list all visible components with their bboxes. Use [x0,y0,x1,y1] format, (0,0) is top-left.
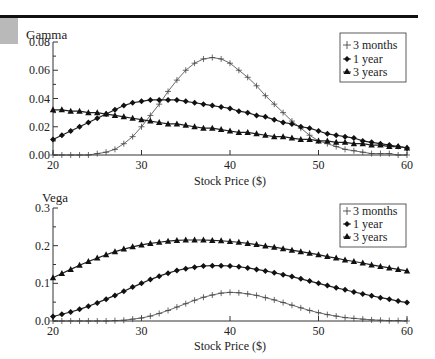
gamma-legend-3-years: 3 years [353,65,388,79]
y-tick-label: 0.08 [29,35,50,49]
gamma-legend-3-months: 3 months [353,38,398,52]
x-tick-label: 50 [313,158,325,172]
y-tick-label: 0.06 [29,63,50,77]
greeks-chart: Gamma 0.000.020.040.060.082030405060 Sto… [0,0,435,359]
y-tick-label: 0.04 [29,92,50,106]
vega-legend-1-year: 1 year [353,217,383,231]
gamma-legend: 3 months 1 year 3 years [340,33,406,82]
gamma-legend-1-year: 1 year [353,52,383,66]
x-tick-label: 20 [47,158,59,172]
x-tick-label: 60 [401,158,413,172]
y-tick-label: 0.1 [35,276,50,290]
vega-legend-3-years: 3 years [353,230,388,244]
y-tick-label: 0.02 [29,120,50,134]
vega-legend: 3 months 1 year 3 years [340,204,406,247]
x-tick-label: 40 [224,324,236,338]
x-tick-label: 20 [47,324,59,338]
y-tick-label: 0.3 [35,201,50,215]
x-tick-label: 30 [136,158,148,172]
x-tick-label: 40 [224,158,236,172]
x-tick-label: 60 [401,324,413,338]
x-tick-label: 50 [313,324,325,338]
vega-legend-3-months: 3 months [353,204,398,218]
vega-x-axis-title: Stock Price ($) [194,339,266,353]
x-tick-label: 30 [136,324,148,338]
vega-panel: Vega 0.00.10.20.32030405060 Stock Price … [35,190,413,353]
gamma-panel: Gamma 0.000.020.040.060.082030405060 Sto… [26,27,413,188]
y-tick-label: 0.2 [35,239,50,253]
gamma-x-axis-title: Stock Price ($) [194,174,266,188]
vega-plot-area [50,237,410,324]
